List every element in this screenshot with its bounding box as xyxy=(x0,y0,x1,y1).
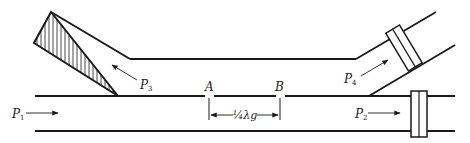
spacing-label: ¼λg xyxy=(233,109,258,122)
directional-coupler-diagram: ¼λg A B P1 P2 P3 P4 xyxy=(0,0,470,143)
quarter-wavelength-dimension: ¼λg xyxy=(209,98,280,122)
svg-text:P2: P2 xyxy=(354,107,368,122)
arrow-icon xyxy=(361,60,388,76)
arrow-icon xyxy=(112,65,137,80)
matched-load-termination xyxy=(34,12,118,96)
point-b-label: B xyxy=(274,80,284,94)
point-a-label: A xyxy=(204,80,214,94)
auxiliary-guide-flange xyxy=(386,25,422,71)
port-p1: P1 xyxy=(11,107,58,122)
svg-text:P3: P3 xyxy=(139,78,153,93)
svg-text:P1: P1 xyxy=(11,107,25,122)
main-guide-flange xyxy=(411,91,427,137)
port-p4: P4 xyxy=(343,60,388,87)
auxiliary-guide xyxy=(51,12,455,96)
port-p3: P3 xyxy=(112,65,153,93)
svg-text:P4: P4 xyxy=(343,72,357,87)
port-p2: P2 xyxy=(354,107,400,122)
